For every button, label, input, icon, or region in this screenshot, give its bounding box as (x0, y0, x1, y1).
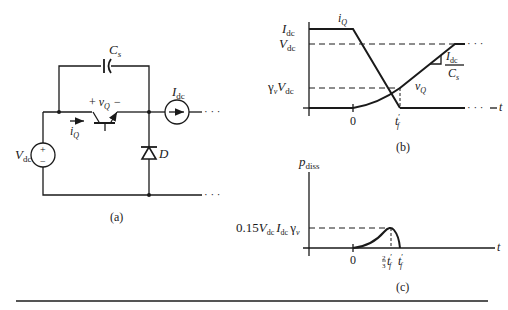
diode-label: D (158, 146, 169, 161)
b-vq-label: vQ (415, 79, 426, 95)
b-tf-label: t′f (395, 113, 401, 130)
caption-a: (a) (110, 210, 123, 224)
circuit-panel-a: Cs Idc Vdc + − D +vQ− iQ · · · · · · (a) (15, 42, 221, 224)
vdc-plus: + (40, 144, 46, 155)
bottom-rule-divider (16, 300, 488, 302)
diode-d-icon (141, 147, 157, 159)
idc-label: Idc (171, 84, 185, 101)
b-vdc-dots: · · · (467, 37, 484, 49)
c-peak-label: 0.15VdcIdcγv (236, 220, 300, 237)
slope-den: Cs (448, 66, 459, 82)
continuation-dots-bottom: · · · (204, 188, 221, 200)
svg-text:3: 3 (382, 262, 386, 270)
iq-label: iQ (70, 124, 79, 140)
power-panel-c: t pdiss 0.15VdcIdcγv 0 2 3 t′f t′f (c) (236, 154, 501, 294)
current-source-idc-icon (165, 100, 189, 124)
vdc-minus: − (40, 156, 46, 167)
b-gamma-vdc-label: γvVdc (267, 79, 294, 96)
continuation-dots-top: · · · (204, 105, 221, 117)
b-zero-label: 0 (350, 114, 356, 128)
b-vdc-label: Vdc (279, 36, 295, 53)
c-zero-label: 0 (350, 253, 356, 267)
bjt-transistor-icon (93, 112, 149, 131)
b-iq-label: iQ (338, 11, 347, 27)
wire-bottom-rail (43, 167, 202, 195)
c-two-thirds-tf-label: 2 3 t′f (382, 253, 393, 270)
vdc-label: Vdc (15, 147, 31, 164)
figure-canvas: Cs Idc Vdc + − D +vQ− iQ · · · · · · (a)… (0, 0, 508, 310)
pdiss-curve (353, 228, 400, 248)
node-dot-left (57, 110, 61, 114)
vq-label: +vQ− (89, 95, 121, 111)
c-t-label: t (497, 240, 501, 254)
slope-num: Idc (445, 49, 458, 65)
capacitor-cs-symbol (104, 59, 111, 73)
b-t-label: t (499, 100, 503, 114)
c-tf-label: t′f (398, 253, 404, 270)
svg-text:t′f: t′f (387, 253, 393, 270)
cap-label: Cs (109, 42, 122, 59)
b-axis-dots: · · · (467, 101, 484, 113)
caption-b: (b) (396, 140, 410, 154)
waveform-panel-b: · · · t · · · Idc Cs Idc Vdc γvVdc iQ vQ… (267, 11, 503, 154)
caption-c: (c) (396, 280, 409, 294)
c-y-label: pdiss (298, 154, 320, 171)
